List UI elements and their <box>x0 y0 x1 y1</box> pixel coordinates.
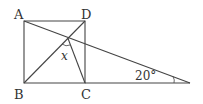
segment-p-to-c <box>68 39 85 84</box>
label-d: D <box>81 7 91 22</box>
geometry-diagram: A D B C x 20° <box>0 0 203 104</box>
label-c: C <box>81 87 91 102</box>
label-a: A <box>13 7 24 22</box>
angle-x-label: x <box>61 49 68 63</box>
angle-20-label: 20° <box>135 69 156 83</box>
diagonal-bd <box>24 21 85 83</box>
angle-x-arc <box>62 44 70 46</box>
line-a-to-e <box>24 21 190 83</box>
label-b: B <box>14 87 24 102</box>
